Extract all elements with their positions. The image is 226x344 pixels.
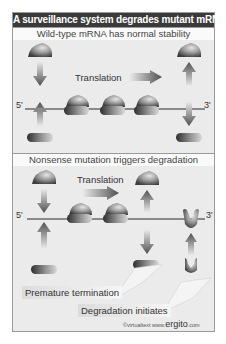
large-subunit-icon [175, 42, 203, 58]
arrow-up-icon [33, 102, 47, 126]
figure-frame: A surveillance system degrades mutant mR… [12, 12, 215, 332]
ribosome-icon [133, 95, 161, 117]
bottom-panel-header: Nonsense mutation triggers degradation [13, 153, 214, 167]
three-prime-label: 3' [206, 210, 213, 220]
credit-brand: ergito [165, 319, 188, 329]
translation-label: Translation [75, 72, 122, 83]
top-panel: Translation 5' 3' [13, 40, 214, 153]
five-prime-label: 5' [16, 100, 23, 110]
arrow-down-icon [182, 102, 196, 126]
credit-prefix: ©virtualtext www. [123, 322, 165, 328]
arrow-up-icon [140, 190, 154, 212]
bottom-panel: Translation 5' 3' Premature termination … [13, 166, 214, 331]
nuclease-icon [183, 208, 199, 230]
five-prime-label: 5' [16, 210, 23, 220]
credit-line: ©virtualtext www.ergito.com [123, 319, 200, 329]
large-subunit-icon [26, 42, 54, 58]
arrow-up-icon [185, 233, 197, 255]
small-subunit-icon [176, 133, 202, 142]
arrow-right-icon [130, 70, 162, 84]
three-prime-label: 3' [204, 100, 211, 110]
ribosome-icon [63, 95, 91, 117]
degradation-initiates-callout: Degradation initiates [78, 304, 171, 317]
arrow-up-icon [37, 222, 51, 248]
arrow-down-icon [140, 230, 154, 254]
ribosome-icon [66, 203, 94, 225]
top-panel-header: Wild-type mRNA has normal stability [13, 27, 214, 41]
arrow-up-icon [182, 62, 196, 86]
small-subunit-icon [31, 265, 57, 274]
nuclease-icon [183, 258, 199, 276]
large-subunit-icon [133, 170, 161, 186]
arrow-right-icon [83, 186, 119, 200]
arrow-down-icon [37, 189, 51, 213]
large-subunit-icon [30, 169, 58, 185]
figure-title: A surveillance system degrades mutant mR… [13, 13, 214, 27]
credit-suffix: .com [188, 322, 200, 328]
arrow-down-icon [33, 62, 47, 86]
premature-termination-callout: Premature termination [22, 286, 122, 299]
translation-label: Translation [77, 174, 124, 185]
ribosome-icon [99, 95, 127, 117]
ribosome-icon [102, 203, 130, 225]
small-subunit-icon [27, 133, 53, 142]
